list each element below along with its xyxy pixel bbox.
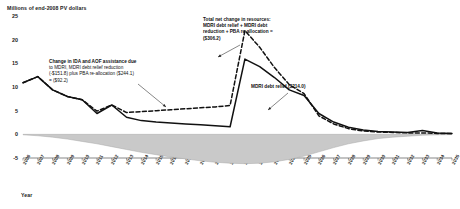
leader-line-mdri-debt-relief: [268, 93, 288, 110]
annotation-ida-aof: Change in IDA and AOF assistance dueto M…: [49, 59, 136, 84]
annotation-line: MDRI debt relief ($214.0): [251, 84, 305, 90]
leader-line-total-net-change: [218, 45, 240, 57]
annotation-line: reduction + PBA re-allocation =: [203, 29, 273, 35]
annotation-line: ($306.2): [203, 36, 273, 42]
annotation-total-net-change: Total net change in resources:MDRI debt …: [203, 17, 273, 42]
series-area-ida-aof: [23, 134, 452, 163]
annotation-line: (-$151.8) plus PBA re-allocation ($244.1…: [49, 71, 136, 77]
leader-line-ida-aof: [138, 84, 166, 107]
annotation-mdri-debt-relief: MDRI debt relief ($214.0): [251, 84, 305, 90]
annotation-line: = ($92.2): [49, 78, 136, 84]
